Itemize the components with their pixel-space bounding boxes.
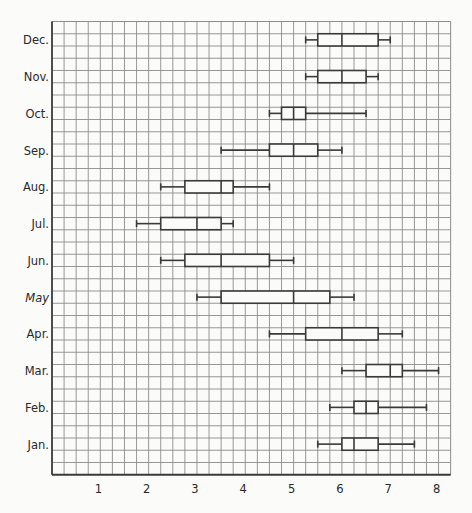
box-plot-nov — [306, 71, 378, 83]
box-plot-chart: Dec.Nov.Oct.Sep.Aug.Jul.Jun.MayApr.Mar.F… — [0, 0, 472, 513]
y-axis-label: Feb. — [25, 401, 49, 415]
iqr-box — [221, 291, 330, 303]
box-plot-may — [197, 291, 354, 303]
y-axis-label: Dec. — [23, 33, 49, 47]
box-plot-jan — [318, 438, 415, 450]
y-axis-label: Jun. — [26, 254, 49, 268]
x-axis-tick-label: 2 — [143, 482, 150, 496]
iqr-box — [185, 254, 270, 266]
box-plot-aug — [161, 181, 270, 193]
y-axis-label: Mar. — [25, 364, 49, 378]
y-axis-label: Sep. — [24, 144, 49, 158]
iqr-box — [342, 438, 378, 450]
box-plot-sep — [221, 144, 342, 156]
iqr-box — [366, 365, 402, 377]
y-axis-label: Oct. — [25, 107, 49, 121]
y-axis-label: Jan. — [27, 438, 49, 452]
y-axis-label: Nov. — [24, 70, 49, 84]
box-plot-mar — [342, 365, 439, 377]
iqr-box — [161, 218, 221, 230]
box-plot-jun — [161, 254, 294, 266]
box-plot-apr — [269, 328, 402, 340]
y-axis-label: Aug. — [23, 180, 49, 194]
box-plot-jul — [137, 218, 234, 230]
y-axis-label: May — [25, 291, 49, 305]
x-axis-tick-label: 7 — [385, 482, 392, 496]
y-axis-label: Apr. — [27, 327, 50, 341]
iqr-box — [318, 34, 378, 46]
x-axis-tick-label: 6 — [336, 482, 343, 496]
y-axis-labels: Dec.Nov.Oct.Sep.Aug.Jul.Jun.MayApr.Mar.F… — [23, 33, 49, 451]
x-axis-tick-label: 4 — [240, 482, 247, 496]
x-axis-tick-label: 5 — [288, 482, 295, 496]
x-axis-tick-label: 8 — [433, 482, 440, 496]
x-axis-tick-label: 1 — [95, 482, 102, 496]
y-axis-label: Jul. — [30, 217, 49, 231]
box-plot-dec — [306, 34, 391, 46]
x-axis-tick-label: 3 — [191, 482, 198, 496]
x-axis-tick-labels: 12345678 — [95, 482, 441, 496]
box-plot-feb — [330, 401, 427, 413]
iqr-box — [185, 181, 233, 193]
